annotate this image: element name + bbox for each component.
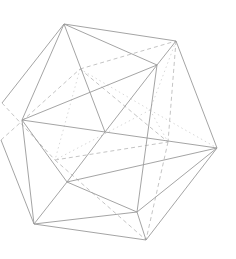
hidden-edge: [2, 103, 55, 160]
icosahedron-wireframe: [0, 0, 236, 259]
visible-edge: [34, 212, 137, 224]
visible-edge: [67, 182, 137, 212]
faint-edge: [80, 69, 150, 110]
hidden-edge: [80, 41, 176, 69]
visible-edge: [64, 24, 176, 41]
hidden-edge: [55, 142, 168, 160]
hidden-edge: [168, 41, 176, 142]
visible-edge: [105, 132, 217, 148]
faint-edge: [150, 41, 176, 110]
hidden-edge: [1, 69, 80, 140]
visible-edge: [34, 224, 146, 240]
faint-edge: [55, 69, 80, 160]
visible-edge: [157, 41, 176, 65]
visible-edge: [176, 41, 217, 148]
faint-edge: [150, 110, 217, 148]
visible-edge: [64, 24, 157, 65]
faint-hidden-edges: [55, 41, 217, 160]
visible-edge: [137, 148, 217, 212]
visible-edge: [34, 182, 67, 224]
hidden-edge: [55, 160, 146, 240]
visible-edge: [22, 120, 67, 182]
